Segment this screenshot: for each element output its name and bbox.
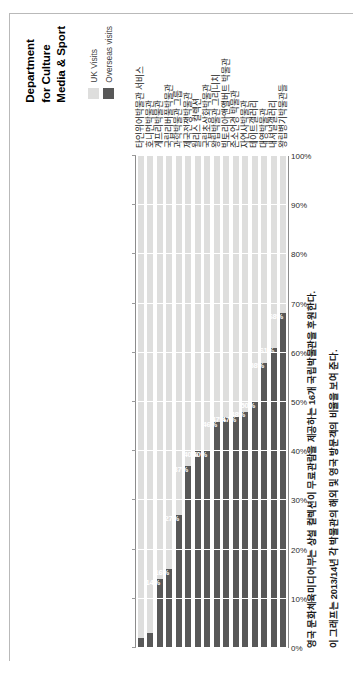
bar-segment-overseas-visits: 50% [252,402,258,648]
bar-row: 47% [233,156,239,648]
axis-tick-label: 40% [291,447,307,456]
bar-row [147,156,153,648]
category-label: 테이트갤러리 [250,100,259,148]
bar-segment-uk-visits [242,156,248,412]
branding-line-2: for Culture [38,26,54,103]
axis-tick [132,499,136,500]
bar-row: 61% [271,156,277,648]
gridline [136,598,288,599]
bar-value-label: 61% [259,346,274,355]
bar-row: 16% [166,156,172,648]
category-label: 게프리박물관 [155,100,164,148]
bar-row: 58% [261,156,267,648]
axis-tick-label: 0% [291,644,303,653]
bar-segment-overseas-visits: 46% [214,422,220,648]
bar-segment-overseas-visits: 61% [271,348,277,648]
bar-segment-uk-visits [214,156,220,422]
chart-plot-area: 14%16%27%37%40%40%46%47%47%48%50%58%61%6… [136,48,288,648]
bar-segment-uk-visits [185,156,191,466]
bar-row: 37% [185,156,191,648]
legend-swatch-overseas-visits [103,88,114,99]
bar-segment-uk-visits [233,156,239,417]
bar-segment-overseas-visits: 27% [176,515,182,648]
gridline [136,352,288,353]
bar-segment-uk-visits [147,156,153,633]
gridline [136,450,288,451]
bar-segment-uk-visits [138,156,144,638]
axis-tick-label: 10% [291,595,307,604]
bar-segment-uk-visits [280,156,286,313]
screenshot-page: Department for Culture Media & Sport UK … [0,0,362,674]
plot-top-line [135,156,136,648]
x-axis-line [288,156,289,648]
gridline [136,204,288,205]
category-label: 왕립박물관 그리니치 [212,74,221,148]
category-label: 호니먼박물관 [146,100,155,148]
bar-segment-uk-visits [166,156,172,569]
bar-segment-overseas-visits: 48% [242,412,248,648]
bar-value-label: 37% [174,464,189,473]
presentation-slide: Department for Culture Media & Sport UK … [10,14,354,662]
gridline [136,303,288,304]
bar-value-label: 58% [250,361,265,370]
category-label: 왕립병기박물관들 [279,84,288,148]
axis-tick [132,549,136,550]
bar-segment-overseas-visits: 37% [185,466,191,648]
rotated-canvas-wrapper: Department for Culture Media & Sport UK … [10,14,354,662]
axis-tick-label: 30% [291,496,307,505]
bar-row: 40% [204,156,210,648]
bar-value-label: 27% [164,514,179,523]
category-label: 존소언경 박물관 [231,90,240,148]
gridline [136,155,288,156]
bar-value-label: 48% [231,410,246,419]
bar-value-label: 14% [145,578,160,587]
axis-tick [132,303,136,304]
category-label: 내셔널갤러리 [269,100,278,148]
axis-tick-label: 60% [291,349,307,358]
legend-label-overseas-visits: Overseas visits [104,26,114,83]
legend-swatch-uk-visits [88,88,99,99]
axis-tick-label: 90% [291,201,307,210]
category-label: 과학박물관 그룹 [174,90,183,148]
legend-item-overseas-visits: Overseas visits [103,26,114,99]
category-label: 국립리버풀박물관 [165,84,174,148]
axis-tick-label: 70% [291,300,307,309]
axis-tick-label: 50% [291,398,307,407]
legend-item-uk-visits: UK Visits [88,26,99,99]
bar-segment-overseas-visits: 58% [261,363,267,648]
axis-tick [132,450,136,451]
legend-label-uk-visits: UK Visits [89,49,99,83]
axis-tick [132,352,136,353]
axis-tick [132,155,136,156]
caption-line-1: 영국 문화체육미디어부는 상설 컬렉션이 무료관람을 제공하는 16개 국립박물… [306,48,319,648]
category-label: 타인위어박물관 서비스 [136,66,145,148]
bar-row: 47% [223,156,229,648]
axis-tick [132,253,136,254]
bar-value-label: 16% [155,568,170,577]
bar-row: 40% [195,156,201,648]
department-branding: Department for Culture Media & Sport [22,26,69,103]
bar-row: 50% [252,156,258,648]
bar-segment-overseas-visits [147,633,153,648]
gridline [136,253,288,254]
gridline [136,549,288,550]
category-label: 월리스 컬렉션 [193,98,202,148]
bar-segment-overseas-visits: 47% [223,417,229,648]
branding-line-1: Department [22,26,38,103]
bar-segment-overseas-visits: 47% [233,417,239,648]
bar-row: 27% [176,156,182,648]
gridline [136,647,288,648]
gridline [136,499,288,500]
chart-legend: UK Visits Overseas visits [88,26,114,99]
bar-segment-uk-visits [223,156,229,417]
axis-tick-label: 80% [291,250,307,259]
bar-track: 14%16%27%37%40%40%46%47%47%48%50%58%61%6… [136,156,288,648]
bar-row: 68% [280,156,286,648]
bar-segment-uk-visits [261,156,267,363]
bar-row [138,156,144,648]
axis-tick [132,401,136,402]
axis-tick-label: 20% [291,546,307,555]
bar-segment-overseas-visits: 16% [166,569,172,648]
bar-value-label: 68% [269,312,284,321]
category-label: 국립초상화박물관 [203,84,212,148]
